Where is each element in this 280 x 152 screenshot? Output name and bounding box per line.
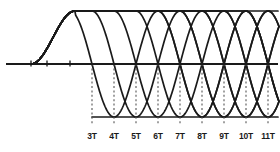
x-tick-label-6T: 6T (153, 132, 163, 141)
x-tick-label-5T: 5T (131, 132, 141, 141)
x-tick-label-11T: 11T (261, 132, 275, 141)
x-tick-label-4T: 4T (109, 132, 119, 141)
x-tick-label-3T: 3T (87, 132, 97, 141)
eye-diagram-figure: 3T4T5T6T7T8T9T10T11T (0, 0, 280, 152)
response-curve-11T (31, 11, 279, 101)
x-tick-label-7T: 7T (175, 132, 185, 141)
eye-diagram-plot (0, 0, 280, 152)
x-tick-label-8T: 8T (197, 132, 207, 141)
x-tick-label-9T: 9T (219, 132, 229, 141)
x-tick-label-10T: 10T (239, 132, 253, 141)
